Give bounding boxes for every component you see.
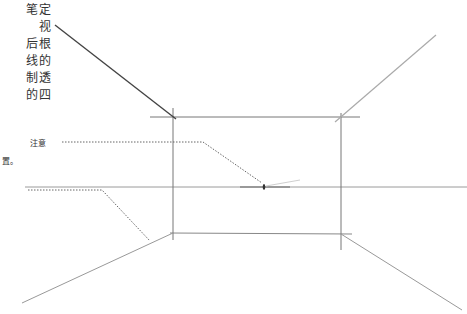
faint-stroke — [266, 180, 300, 186]
text-line: 的四 — [26, 87, 52, 104]
text-line: 视 — [39, 19, 52, 36]
bottom-right-orthogonal — [341, 234, 462, 310]
bottom-left-orthogonal — [22, 233, 173, 303]
one-point-perspective-drawing — [0, 0, 467, 314]
top-left-orthogonal — [55, 25, 176, 119]
text-line: 笔定 — [26, 2, 52, 19]
leader-line-lower — [28, 190, 150, 241]
perspective-diagram: 笔定 视 后根 线的 制透 的四 注意 置。 — [0, 0, 467, 314]
annotation-note-2: 置。 — [2, 155, 18, 166]
text-line: 后根 — [26, 36, 52, 53]
back-wall-bottom-edge — [170, 233, 352, 234]
top-right-orthogonal — [335, 35, 436, 122]
leader-line-vanishing-point — [62, 142, 262, 183]
annotation-note-1: 注意 — [30, 137, 46, 148]
text-line: 线的 — [26, 53, 52, 70]
vanishing-point — [263, 184, 266, 190]
text-line: 制透 — [26, 70, 52, 87]
